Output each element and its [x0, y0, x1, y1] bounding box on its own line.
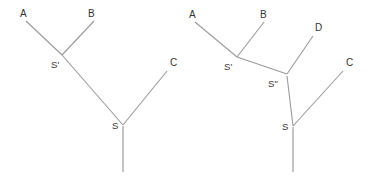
edge-sdoubleprime-to-s-right: [287, 76, 293, 126]
left-tree-group: [26, 21, 167, 172]
edge-c-to-s-left: [123, 71, 167, 125]
node-label-sdoubleprime-right: S": [268, 79, 278, 89]
edge-b-to-sprime-left: [62, 21, 94, 55]
node-label-sprime-left: S': [51, 60, 60, 70]
node-label-s-right: S: [282, 122, 289, 132]
edge-c-to-s-right: [293, 71, 343, 126]
leaf-label-b-left: B: [88, 9, 95, 19]
edge-sprime-to-s-left: [62, 55, 123, 125]
node-label-s-left: S: [112, 121, 119, 131]
edge-a-to-sprime-right: [195, 22, 237, 57]
leaf-label-a-left: A: [20, 9, 27, 19]
leaf-label-d-right: D: [315, 23, 322, 33]
edge-sprime-to-sdoubleprime-right: [237, 57, 287, 74]
right-tree-group: [195, 22, 343, 172]
leaf-label-c-right: C: [346, 58, 353, 68]
edge-a-to-sprime-left: [26, 21, 62, 55]
leaf-label-b-right: B: [260, 10, 267, 20]
leaf-label-c-left: C: [170, 58, 177, 68]
edge-b-to-sprime-right: [237, 22, 264, 57]
figure-canvas: A B C S' S A B D C S' S" S: [0, 0, 370, 183]
leaf-label-a-right: A: [189, 10, 196, 20]
edge-d-to-sdoubleprime-right: [287, 36, 313, 74]
node-label-sprime-right: S': [224, 62, 233, 72]
